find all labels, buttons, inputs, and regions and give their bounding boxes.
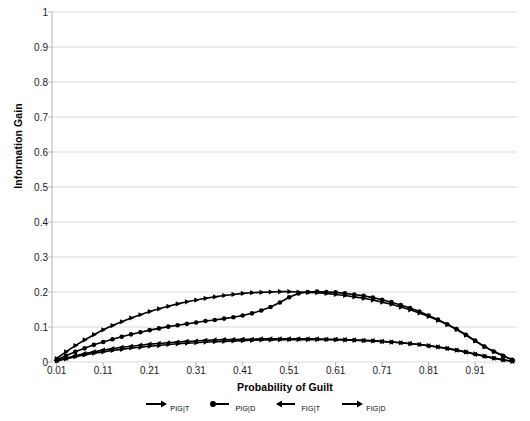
legend-symbol-line-arrow-right-icon (144, 398, 168, 410)
data-point (139, 312, 144, 317)
data-point (398, 303, 403, 308)
data-point (269, 289, 274, 294)
data-point (371, 295, 376, 300)
data-point (287, 295, 292, 300)
x-axis-tick-label: 0.51 (279, 365, 298, 376)
data-point (287, 289, 292, 294)
x-axis-tick-label: 0.31 (186, 365, 205, 376)
data-point (138, 330, 143, 335)
chart-container: Information Gain 00.10.20.30.40.50.60.70… (0, 0, 530, 421)
data-point (157, 326, 162, 331)
data-point (324, 290, 329, 295)
data-point (445, 322, 450, 327)
legend-label: FIG|D (366, 405, 386, 412)
series-line (57, 339, 513, 361)
x-axis-tick-label: 0.71 (372, 365, 391, 376)
data-point (268, 305, 273, 310)
data-point (222, 293, 227, 298)
series-fig-d (55, 337, 516, 364)
data-point (473, 338, 478, 343)
legend-symbol-line-arrow-right-icon (340, 398, 364, 410)
data-point (408, 306, 413, 311)
legend-label: PIG|D (235, 405, 255, 412)
data-point (157, 306, 162, 311)
data-point (129, 332, 134, 337)
data-point (203, 319, 208, 324)
legend-label: PIG|T (170, 405, 189, 412)
data-point (175, 323, 180, 328)
data-point (259, 290, 264, 295)
data-point (194, 297, 199, 302)
legend-symbol-line-arrow-left-icon (275, 398, 299, 410)
data-point (147, 328, 152, 333)
data-point (148, 309, 153, 314)
series-pig-d (54, 289, 514, 362)
x-axis-tick-label: 0.01 (47, 365, 66, 376)
legend-label: FIG|T (301, 405, 320, 412)
legend-marker (276, 401, 282, 408)
data-point (213, 294, 218, 299)
data-point (426, 313, 431, 318)
x-axis-tick-label: 0.61 (326, 365, 345, 376)
legend-item: PIG|T (144, 398, 189, 410)
series-line (57, 340, 513, 362)
data-point (278, 289, 283, 294)
x-axis-tick-label: 0.91 (465, 365, 484, 376)
data-point (389, 300, 394, 305)
data-point (278, 300, 283, 305)
data-point (194, 320, 199, 325)
legend-item: PIG|D (209, 398, 255, 410)
x-axis-tick-label: 0.81 (419, 365, 438, 376)
data-point (204, 296, 209, 301)
data-point (185, 299, 190, 304)
data-point (231, 315, 236, 320)
data-point (305, 290, 310, 295)
data-point (333, 290, 338, 295)
data-point (296, 291, 301, 296)
data-point (240, 313, 245, 318)
data-point (501, 353, 506, 358)
legend-item: FIG|D (340, 398, 386, 410)
legend-marker (357, 401, 363, 408)
data-point (417, 309, 422, 314)
data-point (232, 292, 237, 297)
data-point (101, 340, 106, 345)
data-point (259, 308, 264, 313)
legend-symbol-line-circle-left-icon (209, 398, 233, 410)
data-point (82, 346, 87, 351)
plot-area (0, 0, 530, 421)
data-point (250, 290, 255, 295)
data-point (380, 297, 385, 302)
data-point (352, 292, 357, 297)
data-point (222, 316, 227, 321)
data-point (361, 294, 366, 299)
data-point (92, 343, 97, 348)
x-axis-title: Probability of Guilt (52, 381, 518, 393)
data-point (250, 311, 255, 316)
data-point (166, 324, 171, 329)
data-point (491, 349, 496, 354)
x-axis-tick-label: 0.11 (94, 365, 113, 376)
chart-legend: PIG|TPIG|DFIG|TFIG|D (0, 398, 530, 420)
data-point (119, 335, 124, 340)
data-point (482, 344, 487, 349)
data-point (315, 289, 320, 294)
x-axis-tick-label: 0.21 (140, 365, 159, 376)
x-axis-tick-label: 0.41 (233, 365, 252, 376)
data-point (464, 332, 469, 337)
legend-item: FIG|T (275, 398, 320, 410)
data-point (436, 317, 441, 322)
legend-marker (161, 401, 167, 408)
data-point (166, 304, 171, 309)
data-point (454, 327, 459, 332)
data-point (176, 301, 181, 306)
data-point (212, 318, 217, 323)
data-point (129, 315, 134, 320)
data-point (110, 337, 115, 342)
data-point (185, 322, 190, 327)
legend-marker (210, 401, 216, 407)
data-point (343, 291, 348, 296)
